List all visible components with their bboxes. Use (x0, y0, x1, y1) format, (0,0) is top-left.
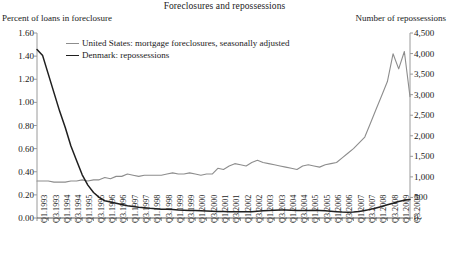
tick-marks (34, 33, 413, 221)
legend-label-dk: Denmark: repossessions (82, 50, 169, 62)
legend-item-denmark: Denmark: repossessions (66, 50, 289, 62)
legend-item-united-states: United States: mortgage foreclosures, se… (66, 38, 289, 50)
legend-swatch-icon-us (66, 43, 79, 44)
legend-swatch-icon-dk (66, 55, 79, 56)
legend: United States: mortgage foreclosures, se… (66, 38, 289, 61)
series-lines (37, 49, 410, 212)
chart-container: Foreclosures and repossessions Percent o… (0, 0, 449, 269)
legend-label-us: United States: mortgage foreclosures, se… (82, 38, 289, 50)
